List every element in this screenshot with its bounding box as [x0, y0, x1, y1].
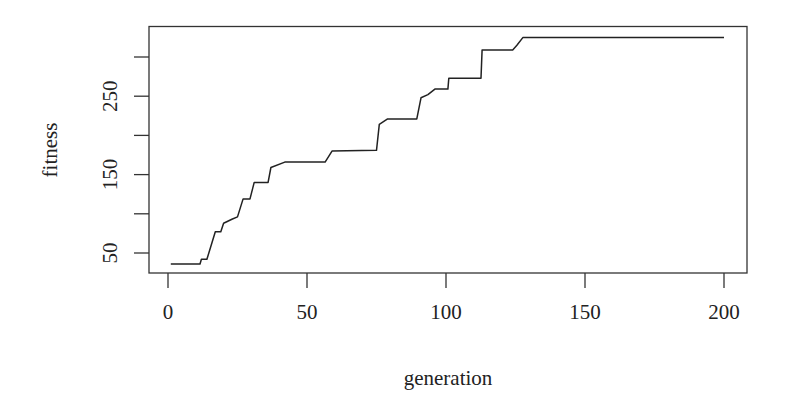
y-axis: 50150250 [98, 57, 149, 264]
line-chart: 050100150200 50150250 generation fitness [0, 0, 785, 404]
y-tick-label: 250 [98, 80, 122, 112]
x-tick-label: 200 [708, 300, 740, 324]
y-tick-label: 50 [98, 243, 122, 264]
x-axis: 050100150200 [163, 273, 740, 324]
x-tick-label: 150 [569, 300, 601, 324]
y-tick-label: 150 [98, 159, 122, 191]
x-tick-label: 100 [430, 300, 462, 324]
fitness-line [171, 37, 724, 264]
plot-frame [149, 27, 747, 274]
x-tick-label: 50 [297, 300, 318, 324]
x-tick-label: 0 [163, 300, 174, 324]
x-axis-label: generation [404, 366, 493, 390]
y-axis-label: fitness [38, 123, 62, 178]
